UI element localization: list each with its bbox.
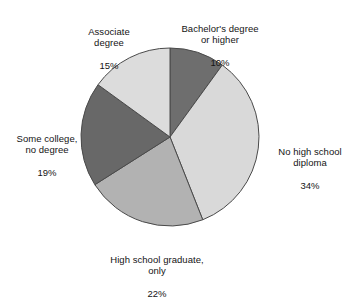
pie-label-text: Associate degree [62,26,156,49]
pie-label-percent: 22% [84,288,230,300]
pie-label-text: Some college, no degree [2,133,92,156]
pie-label-some-college-no-degree: Some college, no degree 19% [2,121,92,190]
pie-label-percent: 34% [262,180,358,192]
pie-label-text: High school graduate, only [84,254,230,277]
pie-label-no-high-school-diploma: No high school diploma 34% [262,134,358,203]
pie-label-percent: 19% [2,167,92,179]
pie-label-percent: 15% [62,60,156,72]
pie-label-associate-degree: Associate degree 15% [62,14,156,83]
pie-label-bachelors-degree-or-higher: Bachelor's degree or higher 10% [162,11,278,80]
pie-label-high-school-graduate-only: High school graduate, only 22% [84,242,230,301]
pie-label-percent: 10% [162,57,278,69]
pie-label-text: No high school diploma [262,146,358,169]
pie-label-text: Bachelor's degree or higher [162,23,278,46]
